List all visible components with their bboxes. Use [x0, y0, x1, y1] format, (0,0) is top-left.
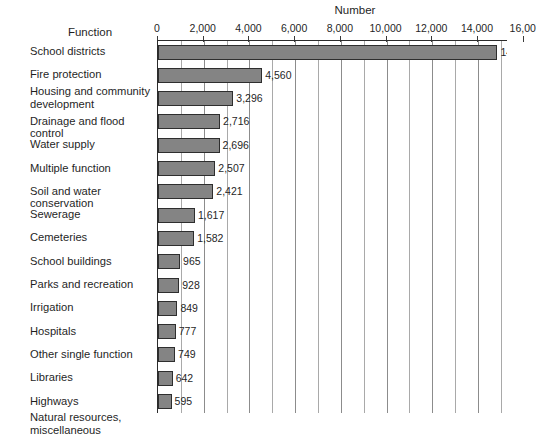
x-tick-label: 10,000	[370, 22, 402, 34]
plot-area: 14,8514,5603,2962,7162,6962,5072,4211,61…	[157, 40, 507, 413]
bar	[158, 45, 497, 60]
bar-row: 2,696	[158, 134, 507, 157]
bar	[158, 371, 173, 386]
category-label-line: Irrigation	[30, 301, 156, 314]
category-label-line: Housing and community	[30, 85, 156, 97]
bar-row: 2,421	[158, 181, 507, 204]
bar	[158, 324, 176, 339]
category-label-line: Fire protection	[30, 68, 156, 81]
category-label: School districts	[30, 45, 156, 58]
bar-row: 642	[158, 367, 507, 390]
bar-value-label: 1,582	[197, 232, 223, 245]
bar-value-label: 928	[182, 279, 200, 292]
category-label: Cemeteries	[30, 231, 156, 244]
category-label-line: School buildings	[30, 255, 156, 268]
bar-row: 849	[158, 297, 507, 320]
bar-value-label: 965	[183, 255, 201, 268]
x-axis-title: Number	[310, 4, 400, 16]
category-label: Natural resources,miscellaneous	[30, 411, 156, 436]
bar	[158, 138, 220, 153]
category-label: Hospitals	[30, 325, 156, 338]
y-axis-title: Function	[30, 26, 150, 38]
bar-row: 1,617	[158, 204, 507, 227]
bar	[158, 347, 175, 362]
category-label: Other single function	[30, 348, 156, 361]
category-label-line: Parks and recreation	[30, 278, 156, 291]
category-label-line: Cemeteries	[30, 231, 156, 244]
category-label-line: Multiple function	[30, 162, 156, 175]
x-tick-label: 4,000	[235, 22, 261, 34]
bar-value-label: 4,560	[265, 69, 291, 82]
category-label: Highways	[30, 395, 156, 408]
category-label: Drainage and flood control	[30, 115, 156, 140]
bar-row: 928	[158, 274, 507, 297]
category-label-line: Natural resources,	[30, 411, 156, 423]
x-tick-label: 16,00	[510, 22, 536, 34]
bar-row: 777	[158, 321, 507, 344]
bar-value-label: 2,716	[223, 115, 249, 128]
category-label-line: Other single function	[30, 348, 156, 361]
category-label: Parks and recreation	[30, 278, 156, 291]
category-label-line: development	[30, 98, 156, 110]
category-label-line: School districts	[30, 45, 156, 58]
bar-value-label: 2,507	[218, 162, 244, 175]
category-label-line: Sewerage	[30, 208, 156, 221]
category-label: Libraries	[30, 371, 156, 384]
bar-row: 595	[158, 391, 507, 414]
bar	[158, 394, 172, 409]
bar-value-label: 749	[178, 348, 196, 361]
x-tick-mark	[523, 36, 524, 42]
category-label: School buildings	[30, 255, 156, 268]
category-label: Fire protection	[30, 68, 156, 81]
bar	[158, 91, 233, 106]
bar	[158, 301, 177, 316]
bar	[158, 208, 195, 223]
category-label: Soil and water conservation	[30, 185, 156, 210]
bar-row: 749	[158, 344, 507, 367]
x-tick-label: 12,000	[415, 22, 447, 34]
category-label-line: miscellaneous	[30, 424, 156, 436]
category-label-line: Drainage and flood control	[30, 115, 156, 140]
bar	[158, 184, 213, 199]
category-label-line: Highways	[30, 395, 156, 408]
bar-row: 2,716	[158, 111, 507, 134]
bar-value-label: 2,696	[223, 139, 249, 152]
x-tick-label: 14,000	[461, 22, 493, 34]
bar	[158, 161, 215, 176]
x-tick-label: 2,000	[190, 22, 216, 34]
bar-value-label: 3,296	[236, 92, 262, 105]
bar-value-label: 849	[180, 302, 198, 315]
bar	[158, 231, 194, 246]
x-tick-label: 0	[154, 22, 160, 34]
bar-value-label: 1,617	[198, 209, 224, 222]
bar	[158, 254, 180, 269]
bar-row: 965	[158, 251, 507, 274]
category-label: Housing and communitydevelopment	[30, 85, 156, 110]
bar-row: 14,851	[158, 41, 507, 64]
bar-value-label: 642	[176, 372, 194, 385]
category-label-line: Soil and water conservation	[30, 185, 156, 210]
bar-row: 2,507	[158, 158, 507, 181]
bar-value-label: 14,851	[500, 46, 507, 59]
category-label-line: Water supply	[30, 138, 156, 151]
category-label-line: Libraries	[30, 371, 156, 384]
category-label: Multiple function	[30, 162, 156, 175]
bar-row: 4,560	[158, 64, 507, 87]
category-label-line: Hospitals	[30, 325, 156, 338]
x-tick-label: 8,000	[327, 22, 353, 34]
bar-row: 1,582	[158, 227, 507, 250]
bar-value-label: 777	[179, 325, 197, 338]
bar	[158, 114, 220, 129]
bar-value-label: 2,421	[216, 185, 242, 198]
bar	[158, 278, 179, 293]
category-label: Sewerage	[30, 208, 156, 221]
category-label: Irrigation	[30, 301, 156, 314]
bar-value-label: 595	[175, 395, 193, 408]
bar-row: 3,296	[158, 88, 507, 111]
bar	[158, 68, 262, 83]
x-tick-label: 6,000	[281, 22, 307, 34]
category-label: Water supply	[30, 138, 156, 151]
